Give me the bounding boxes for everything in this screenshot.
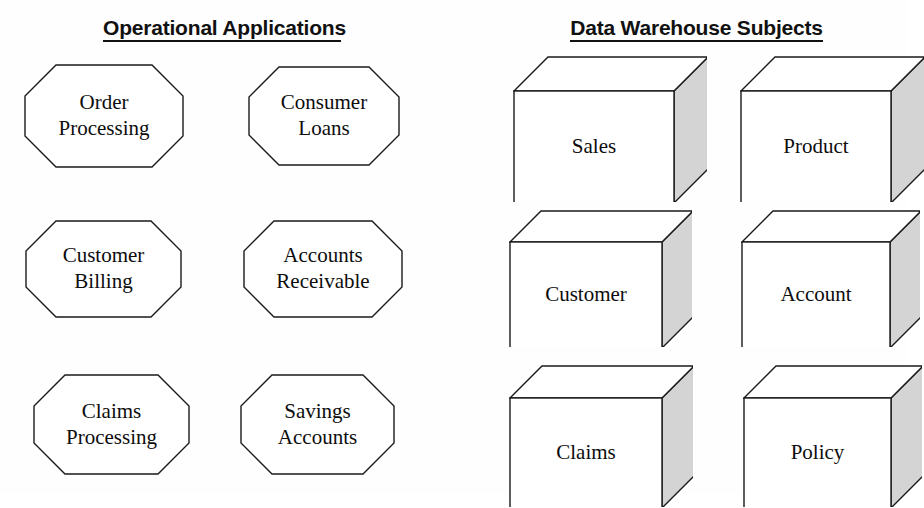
cube-front-face — [741, 91, 891, 202]
cube-front-face — [510, 398, 662, 507]
octagon-outline — [244, 221, 402, 317]
octagon-shape — [25, 220, 182, 318]
cube-top-face — [741, 57, 924, 91]
operational-application-accounts-receivable[interactable]: AccountsReceivable — [243, 220, 403, 318]
cube-top-face — [510, 211, 692, 242]
octagon-shape — [33, 374, 190, 475]
octagon-outline — [241, 375, 394, 474]
data-warehouse-subject-claims[interactable]: Claims — [509, 365, 693, 507]
octagon-shape — [240, 374, 395, 475]
cube-front-face — [742, 242, 890, 347]
cube-shape — [740, 56, 924, 202]
cube-top-face — [510, 366, 693, 398]
operational-application-order-processing[interactable]: OrderProcessing — [24, 64, 184, 168]
data-warehouse-subject-policy[interactable]: Policy — [743, 365, 922, 507]
operational-application-customer-billing[interactable]: CustomerBilling — [25, 220, 182, 318]
operational-application-claims-processing[interactable]: ClaimsProcessing — [33, 374, 190, 475]
cube-shape — [509, 365, 693, 507]
octagon-shape — [243, 220, 403, 318]
cube-shape — [741, 210, 920, 347]
cube-top-face — [514, 57, 707, 91]
cube-front-face — [744, 398, 891, 507]
column-header-operational-applications: Operational Applications — [103, 17, 341, 42]
operational-application-savings-accounts[interactable]: SavingsAccounts — [240, 374, 395, 475]
cube-top-face — [744, 366, 922, 398]
cube-shape — [743, 365, 922, 507]
cube-front-face — [514, 91, 674, 202]
octagon-outline — [34, 375, 189, 474]
data-warehouse-subject-customer[interactable]: Customer — [509, 210, 692, 347]
octagon-outline — [26, 221, 181, 317]
data-warehouse-subject-product[interactable]: Product — [740, 56, 924, 202]
cube-top-face — [742, 211, 920, 242]
cube-shape — [513, 56, 707, 202]
octagon-outline — [249, 67, 399, 165]
cube-shape — [509, 210, 692, 347]
octagon-shape — [248, 66, 400, 166]
octagon-shape — [24, 64, 184, 168]
cube-front-face — [510, 242, 662, 347]
data-warehouse-subject-sales[interactable]: Sales — [513, 56, 707, 202]
octagon-outline — [25, 65, 183, 167]
data-warehouse-subject-account[interactable]: Account — [741, 210, 920, 347]
operational-application-consumer-loans[interactable]: ConsumerLoans — [248, 66, 400, 166]
column-header-data-warehouse-subjects: Data Warehouse Subjects — [570, 17, 823, 42]
